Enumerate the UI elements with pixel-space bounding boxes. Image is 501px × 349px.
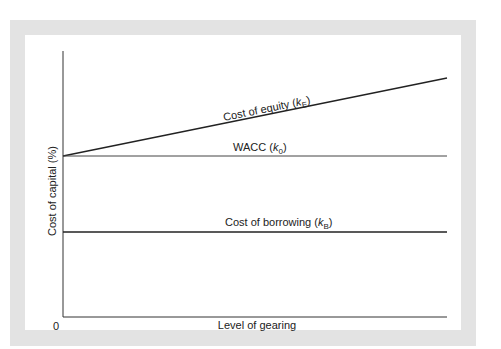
origin-label: 0 xyxy=(53,320,59,332)
cost-of-borrowing-label: Cost of borrowing (kB) xyxy=(225,216,332,231)
wacc-label: WACC (k0) xyxy=(233,141,287,156)
chart-svg: Cost of equity (kE) WACC (k0) Cost of bo… xyxy=(0,0,501,349)
x-axis-label: Level of gearing xyxy=(218,319,296,331)
y-axis-label: Cost of capital (%) xyxy=(46,146,58,236)
